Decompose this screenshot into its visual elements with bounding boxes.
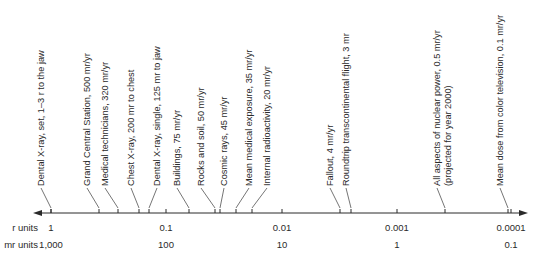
dose-item: Dental X-ray, set, 1–3 r to the jaw	[36, 50, 51, 213]
dose-item: Mean dose from color television, 0.1 mr/…	[495, 15, 508, 213]
r-units-label: r units	[12, 222, 38, 233]
mr-tick-label: 10	[277, 239, 288, 250]
item-label-secondary: (projected for year 2000)	[443, 85, 453, 186]
item-label: Internal radioactivity, 20 mr/yr	[262, 66, 272, 186]
dose-item: Mean medical exposure, 35 mr/yr	[236, 50, 254, 213]
leader-line	[87, 188, 99, 208]
mr-tick-label: 1,000	[39, 239, 63, 250]
r-tick-label: 0.001	[385, 222, 409, 233]
leader-line	[149, 188, 157, 208]
right-arrow-icon	[519, 210, 528, 216]
dose-item: Cosmic rays, 45 mr/yr	[219, 97, 229, 213]
item-label: Mean medical exposure, 35 mr/yr	[244, 50, 254, 186]
leader-line	[236, 188, 249, 208]
item-label: Medical technicians, 320 mr/yr	[100, 62, 110, 186]
mr-units-label: mr units	[4, 239, 38, 250]
item-label: Rocks and soil, 50 mr/yr	[196, 87, 206, 186]
leader-line	[252, 188, 267, 208]
leader-line	[131, 188, 139, 208]
item-label: Fallout, 4 mr/yr	[325, 125, 335, 186]
dose-item: Rocks and soil, 50 mr/yr	[196, 87, 215, 213]
item-label: Grand Central Station, 500 mr/yr	[82, 53, 92, 186]
item-label: Roundtrip transcontinental flight, 3 mr	[341, 33, 351, 186]
r-tick-label: 0.0001	[496, 222, 525, 233]
item-label: Cosmic rays, 45 mr/yr	[219, 97, 229, 186]
mr-tick-label: 0.1	[504, 239, 517, 250]
item-label: Buildings, 75 mr/yr	[172, 110, 182, 186]
dose-item: Buildings, 75 mr/yr	[172, 110, 189, 213]
major-ticks: 11,0000.11000.01100.00110.00010.1	[39, 209, 525, 250]
leader-line	[177, 188, 189, 208]
leader-line	[105, 188, 118, 208]
dose-item: Internal radioactivity, 20 mr/yr	[252, 66, 272, 213]
leader-line	[220, 188, 224, 208]
dose-item: Fallout, 4 mr/yr	[325, 125, 340, 213]
dose-item: Medical technicians, 320 mr/yr	[100, 62, 118, 213]
r-tick-label: 0.1	[159, 222, 172, 233]
dose-item: Chest X-ray, 200 mr to chest	[126, 69, 139, 213]
item-label: Mean dose from color television, 0.1 mr/…	[495, 15, 505, 186]
leader-line	[41, 188, 51, 208]
item-label: Dental X-ray, single, 125 mr to jaw	[152, 46, 162, 186]
mr-tick-label: 1	[394, 239, 399, 250]
left-arrow-icon	[33, 210, 42, 216]
dose-item: Grand Central Station, 500 mr/yr	[82, 53, 99, 213]
mr-tick-label: 100	[158, 239, 174, 250]
item-label: Dental X-ray, set, 1–3 r to the jaw	[36, 50, 46, 186]
dose-item: Roundtrip transcontinental flight, 3 mr	[341, 33, 351, 213]
radiation-dose-scale-diagram: r units mr units 11,0000.11000.01100.001…	[0, 0, 534, 259]
dose-items: Dental X-ray, set, 1–3 r to the jawGrand…	[36, 15, 508, 213]
dose-item: All aspects of nuclear power, 0.5 mr/yr(…	[432, 30, 453, 213]
r-tick-label: 1	[48, 222, 53, 233]
leader-line	[437, 188, 445, 208]
leader-line	[330, 188, 340, 208]
leader-line	[500, 188, 508, 208]
item-label: Chest X-ray, 200 mr to chest	[126, 69, 136, 186]
dose-item: Dental X-ray, single, 125 mr to jaw	[149, 46, 162, 213]
item-label: All aspects of nuclear power, 0.5 mr/yr	[432, 30, 442, 186]
r-tick-label: 0.01	[273, 222, 292, 233]
leader-line	[346, 188, 351, 208]
dose-axis	[33, 210, 528, 216]
leader-line	[201, 188, 215, 208]
